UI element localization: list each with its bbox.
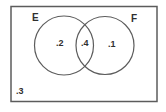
value-e-only: .2 <box>56 38 64 48</box>
venn-diagram: E F .2 .4 .1 .3 <box>0 0 166 112</box>
venn-canvas: E F .2 .4 .1 .3 <box>0 0 166 112</box>
value-intersection: .4 <box>81 38 89 48</box>
value-f-only: .1 <box>108 39 116 49</box>
value-outside: .3 <box>16 86 24 96</box>
set-e-label: E <box>32 12 39 23</box>
set-f-label: F <box>131 13 137 24</box>
